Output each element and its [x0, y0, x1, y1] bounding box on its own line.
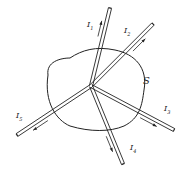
- circuit-junction-figure: [0, 0, 189, 174]
- current-label-i5: I5: [16, 112, 22, 122]
- diagram-canvas: S I1I2I3I4I5: [0, 0, 189, 174]
- current-label-i4: I4: [130, 144, 136, 154]
- closed-surface-s: [47, 48, 145, 130]
- current-arrow-i3-icon: [140, 118, 157, 127]
- wire-i3: [90, 85, 174, 132]
- current-arrow-i4-icon: [106, 136, 112, 152]
- wires-group: [16, 8, 175, 165]
- current-label-i2: I2: [124, 27, 130, 37]
- current-label-i3: I3: [164, 105, 170, 115]
- wire-i4: [90, 85, 125, 164]
- surface-label: S: [143, 76, 150, 86]
- current-label-i1: I1: [87, 21, 93, 31]
- current-arrow-i5-icon: [33, 121, 48, 131]
